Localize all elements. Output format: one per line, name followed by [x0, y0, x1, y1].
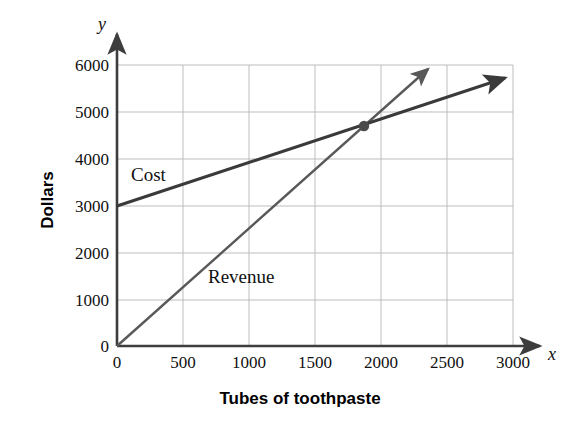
y-axis-title: Dollars	[38, 140, 58, 260]
x-axis-title: Tubes of toothpaste	[110, 389, 490, 409]
series-label-revenue: Revenue	[208, 266, 274, 288]
y-tick-5000: 5000	[45, 103, 109, 123]
y-tick-1000: 1000	[45, 291, 109, 311]
series-label-cost: Cost	[131, 164, 166, 186]
break-even-point-marker	[359, 121, 369, 131]
y-tick-6000: 6000	[45, 56, 109, 76]
y-axis-letter: y	[98, 14, 106, 35]
x-tick-2500: 2500	[415, 353, 479, 373]
chart-figure: 6000 5000 4000 3000 2000 1000 0 0 500 10…	[0, 0, 580, 431]
x-tick-500: 500	[151, 353, 215, 373]
x-tick-3000: 3000	[481, 353, 545, 373]
x-tick-1000: 1000	[217, 353, 281, 373]
x-tick-0: 0	[85, 353, 149, 373]
x-axis-letter: x	[548, 344, 556, 365]
x-tick-1500: 1500	[283, 353, 347, 373]
x-tick-2000: 2000	[349, 353, 413, 373]
